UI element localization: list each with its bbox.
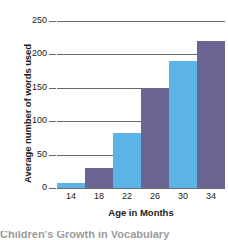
x-axis-title: Age in Months: [57, 207, 225, 218]
y-tick-label-250: 250: [17, 16, 47, 25]
bar-18-months: [85, 168, 113, 188]
x-tick-label-30: 30: [169, 192, 197, 201]
bar-22-months: [113, 133, 141, 188]
y-tick-mark-50: [49, 155, 56, 156]
cropped-caption: Children's Growth in Vocabulary: [0, 231, 228, 240]
gridline-0: [57, 188, 225, 189]
y-tick-label-150: 150: [17, 83, 47, 92]
bar-26-months: [141, 88, 169, 188]
y-tick-label-200: 200: [17, 49, 47, 58]
y-tick-mark-200: [49, 54, 56, 55]
x-tick-label-18: 18: [85, 192, 113, 201]
y-tick-mark-0: [49, 188, 56, 189]
plot-area: [57, 21, 225, 188]
y-tick-label-100: 100: [17, 116, 47, 125]
y-tick-mark-100: [49, 121, 56, 122]
bar-14-months: [57, 183, 85, 188]
gridline-250: [57, 21, 225, 22]
x-tick-label-14: 14: [57, 192, 85, 201]
x-tick-label-26: 26: [141, 192, 169, 201]
y-tick-label-0: 0: [17, 183, 47, 192]
bar-30-months: [169, 61, 197, 188]
x-tick-label-22: 22: [113, 192, 141, 201]
cropped-caption-text: Children's Growth in Vocabulary: [0, 231, 228, 240]
y-tick-label-50: 50: [17, 150, 47, 159]
y-tick-mark-250: [49, 21, 56, 22]
bar-34-months: [197, 41, 225, 188]
bar-chart-figure: Average number of words used Age in Mont…: [0, 0, 228, 240]
y-tick-mark-150: [49, 88, 56, 89]
x-tick-label-34: 34: [197, 192, 225, 201]
